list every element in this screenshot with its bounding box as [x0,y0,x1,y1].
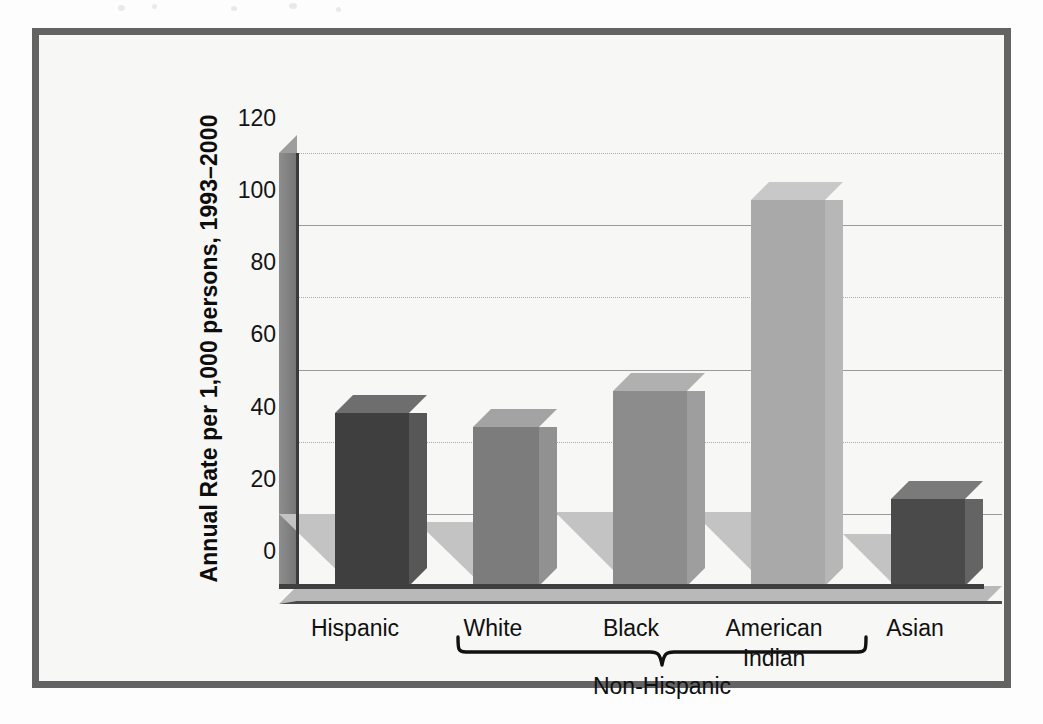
scan-artifact [231,6,237,11]
y-tick-80: 80 [216,249,276,276]
bar-front-face [473,427,539,586]
bar-asian[interactable] [891,499,965,586]
bar-american-indian[interactable] [751,200,825,586]
bar-side-face [687,391,705,586]
scan-artifact [152,4,157,9]
plot-floor-edge [279,601,1002,604]
bracket-label: Non-Hispanic [452,673,872,700]
scan-artifact [118,5,125,11]
scan-artifact [289,3,297,9]
scan-artifact [336,7,341,12]
gridline-100 [297,225,1002,226]
chart-panel: Annual Rate per 1,000 persons, 1993–2000… [39,35,1004,681]
bar-top-face [473,409,557,427]
plot-area [297,153,1002,586]
x-label-text: Asian [886,615,944,641]
bar-top-face [891,481,983,499]
bar-front-face [335,413,409,586]
bar-white[interactable] [473,427,539,586]
bar-black[interactable] [613,391,687,586]
bar-shadow-asian [843,534,895,586]
y-tick-60: 60 [216,321,276,348]
bracket-icon [452,635,872,669]
bar-hispanic[interactable] [335,413,409,586]
bar-front-face [751,200,825,586]
y-axis-line [296,153,299,589]
bar-side-face [825,200,843,586]
bar-top-face [335,395,427,413]
figure-root: Annual Rate per 1,000 persons, 1993–2000… [0,0,1043,724]
bar-side-face [965,499,983,586]
gridline-120 [297,153,1002,154]
non-hispanic-bracket [452,635,872,669]
axis-wall-top-bevel [279,135,297,153]
bar-side-face [409,413,427,586]
bar-front-face [613,391,687,586]
x-label-text: Hispanic [311,615,399,641]
y-tick-40: 40 [216,394,276,421]
bar-top-face [613,373,705,391]
bar-top-face [751,182,843,200]
y-tick-120: 120 [216,105,276,132]
gridline-80 [297,297,1002,298]
gridline-60 [297,370,1002,371]
y-tick-100: 100 [216,177,276,204]
y-tick-20: 20 [216,466,276,493]
bar-side-face [539,427,557,586]
y-tick-0: 0 [216,538,276,565]
bar-front-face [891,499,965,586]
x-label-hispanic: Hispanic [275,613,435,643]
plot-baseline [279,584,984,589]
